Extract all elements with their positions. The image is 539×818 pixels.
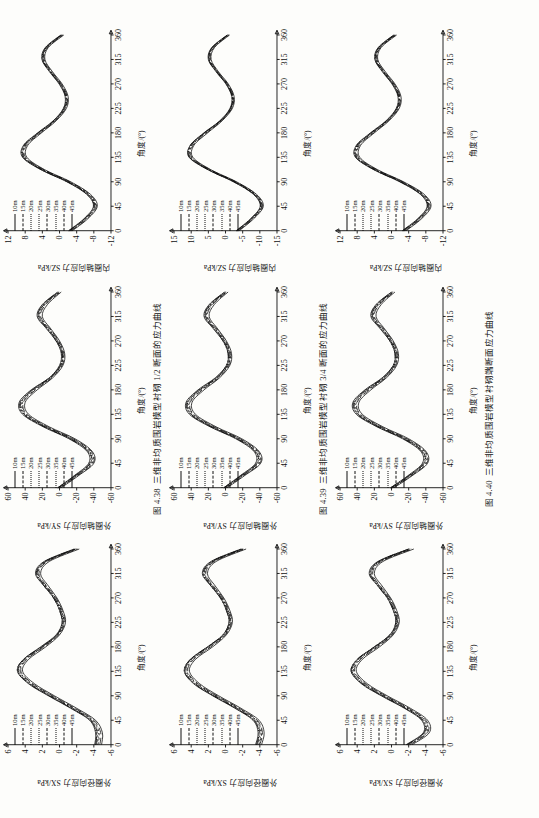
- x-axis-label: 角度/(°): [466, 26, 477, 261]
- rotated-figure-canvas: 外圈径向应力 SX/kPa04590135180225270315360-6-4…: [0, 0, 539, 818]
- chart-fig439-sx: 外圈径向应力 SX/kPa04590135180225270315360-6-4…: [166, 540, 312, 788]
- svg-text:360: 360: [446, 543, 455, 555]
- plot-area: 04590135180225270315360-12-8-40481210m15…: [2, 28, 126, 261]
- plot-area: 04590135180225270315360-60-40-2002040601…: [2, 285, 126, 518]
- series-line-30m: [22, 35, 95, 231]
- series-line-40m: [21, 35, 94, 231]
- series-line-30m: [188, 35, 261, 231]
- svg-text:180: 180: [280, 127, 289, 139]
- svg-text:360: 360: [446, 286, 455, 298]
- figure-number: 图 4.38: [151, 488, 161, 515]
- svg-text:45: 45: [280, 202, 289, 210]
- figure-4-39: 外圈径向应力 SX/kPa04590135180225270315360-6-4…: [166, 0, 332, 818]
- figure-number: 图 4.40: [483, 480, 493, 507]
- svg-text:270: 270: [114, 335, 123, 347]
- svg-text:315: 315: [446, 53, 455, 65]
- svg-text:-20: -20: [72, 492, 81, 503]
- svg-text:270: 270: [280, 592, 289, 604]
- series-line-45m: [18, 292, 89, 488]
- chart-fig438-sx: 外圈径向应力 SX/kPa04590135180225270315360-6-4…: [0, 540, 146, 788]
- series-line-25m: [22, 35, 95, 231]
- series-line-10m: [358, 35, 431, 231]
- svg-text:90: 90: [446, 178, 455, 186]
- y-axis-label: 内圈轴向应力 SZ/kPa: [332, 263, 478, 275]
- y-axis-label: 内圈轴向应力 SZ/kPa: [166, 263, 312, 275]
- svg-text:6: 6: [169, 749, 178, 753]
- svg-text:0: 0: [55, 749, 64, 753]
- svg-text:315: 315: [280, 310, 289, 322]
- plot-area: 04590135180225270315360-12-8-40481210m15…: [334, 28, 458, 261]
- svg-text:15: 15: [169, 235, 178, 243]
- svg-text:90: 90: [280, 435, 289, 443]
- svg-text:0: 0: [446, 486, 455, 490]
- svg-text:90: 90: [114, 435, 123, 443]
- svg-text:20: 20: [38, 492, 47, 500]
- plot-area: 04590135180225270315360-60-40-2002040601…: [168, 285, 292, 518]
- svg-text:135: 135: [114, 665, 123, 677]
- series-line-25m: [355, 35, 428, 231]
- svg-text:360: 360: [114, 286, 123, 298]
- svg-text:180: 180: [446, 641, 455, 653]
- svg-text:-20: -20: [238, 492, 247, 503]
- svg-text:-4: -4: [89, 749, 98, 756]
- svg-text:-4: -4: [72, 235, 81, 242]
- svg-text:45: 45: [114, 459, 123, 467]
- svg-text:-4: -4: [255, 749, 264, 756]
- svg-text:4: 4: [38, 235, 47, 239]
- svg-text:90: 90: [446, 692, 455, 700]
- series-line-25m: [18, 549, 97, 745]
- y-axis-label: 外圈径向应力 SX/kPa: [332, 777, 478, 789]
- y-axis-label: 外圈径向应力 SX/kPa: [166, 777, 312, 789]
- figure-4-40-charts: 外圈径向应力 SX/kPa04590135180225270315360-6-4…: [332, 0, 480, 818]
- svg-text:2: 2: [38, 749, 47, 753]
- svg-text:45: 45: [446, 459, 455, 467]
- plot-area: 04590135180225270315360-6-4-2024610m15m2…: [168, 542, 292, 775]
- series-line-35m: [21, 35, 94, 231]
- x-axis-label: 角度/(°): [300, 283, 311, 518]
- svg-text:270: 270: [446, 78, 455, 90]
- series-line-20m: [355, 35, 428, 231]
- svg-text:270: 270: [280, 335, 289, 347]
- svg-text:0: 0: [221, 749, 230, 753]
- figure-4-39-caption: 图 4.39三维非均质围岩模型衬砌 3/4 断面的应力曲线: [314, 0, 330, 818]
- series-line-20m: [186, 549, 261, 745]
- series-line-45m: [351, 549, 425, 745]
- svg-text:270: 270: [446, 592, 455, 604]
- svg-text:135: 135: [280, 665, 289, 677]
- svg-text:0: 0: [55, 235, 64, 239]
- chart-fig440-sz: 内圈轴向应力 SZ/kPa04590135180225270315360-12-…: [332, 26, 478, 274]
- plot-area: 04590135180225270315360-15-10-505101510m…: [168, 28, 292, 261]
- series-line-30m: [351, 549, 425, 745]
- svg-text:-40: -40: [255, 492, 264, 503]
- series-line-15m: [190, 35, 262, 231]
- svg-text:90: 90: [114, 692, 123, 700]
- svg-text:20: 20: [370, 492, 379, 500]
- svg-text:-20: -20: [404, 492, 413, 503]
- series-line-10m: [22, 549, 102, 745]
- svg-text:270: 270: [114, 592, 123, 604]
- chart-fig440-sy: 外圈轴向应力 SY/kPa04590135180225270315360-60-…: [332, 283, 478, 531]
- svg-text:45: 45: [446, 716, 455, 724]
- svg-text:225: 225: [114, 359, 123, 371]
- plot-svg: 04590135180225270315360-6-4-20246: [2, 542, 126, 775]
- scanned-book-page: 外圈径向应力 SX/kPa04590135180225270315360-6-4…: [0, 0, 539, 818]
- svg-text:135: 135: [446, 408, 455, 420]
- svg-text:-60: -60: [106, 492, 115, 503]
- svg-text:40: 40: [187, 492, 196, 500]
- svg-text:45: 45: [114, 716, 123, 724]
- figure-number: 图 4.39: [317, 488, 327, 515]
- svg-text:180: 180: [114, 384, 123, 396]
- figure-4-40-caption: 图 4.40三维非均质围岩模型衬砌端断面应力曲线: [480, 0, 496, 818]
- svg-text:-2: -2: [404, 749, 413, 756]
- svg-text:225: 225: [280, 616, 289, 628]
- chart-fig439-sz: 内圈轴向应力 SZ/kPa04590135180225270315360-15-…: [166, 26, 312, 274]
- figure-4-40: 外圈径向应力 SX/kPa04590135180225270315360-6-4…: [332, 0, 498, 818]
- svg-text:-40: -40: [89, 492, 98, 503]
- series-line-35m: [187, 292, 259, 488]
- svg-text:315: 315: [114, 567, 123, 579]
- series-line-45m: [184, 549, 258, 745]
- series-line-25m: [185, 549, 260, 745]
- svg-text:135: 135: [446, 151, 455, 163]
- svg-text:4: 4: [353, 749, 362, 753]
- series-line-45m: [352, 292, 423, 488]
